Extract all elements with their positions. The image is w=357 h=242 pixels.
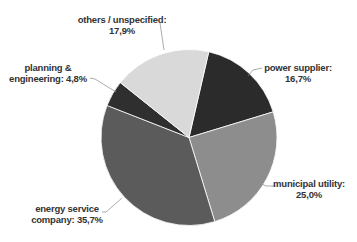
label-others-name: others / unspecified: [72, 14, 172, 25]
label-energy-service-company: energy service company: 35,7% [28, 203, 106, 225]
label-power-name: power supplier: [258, 62, 338, 73]
label-planning-engineering: planning & engineering: 4,8% [2, 62, 94, 84]
label-power-supplier: power supplier: 16,7% [258, 62, 338, 84]
label-energy-name: energy service [28, 203, 106, 214]
label-others-value: 17,9% [72, 25, 172, 36]
pie-slices [101, 50, 277, 226]
label-municipal-utility: municipal utility: 25,0% [268, 178, 350, 200]
label-others-unspecified: others / unspecified: 17,9% [72, 14, 172, 36]
label-municipal-value: 25,0% [268, 189, 350, 200]
label-planning-value: engineering: 4,8% [2, 73, 94, 84]
label-planning-name: planning & [2, 62, 94, 73]
label-power-value: 16,7% [258, 73, 338, 84]
label-municipal-name: municipal utility: [268, 178, 350, 189]
label-energy-value: company: 35,7% [28, 214, 106, 225]
